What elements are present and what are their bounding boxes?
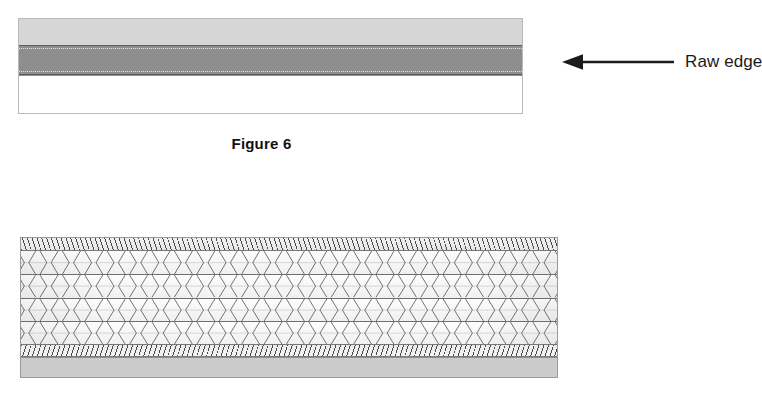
chevron-stitch-row: [21, 321, 557, 344]
raw-edge-callout: Raw edge: [561, 50, 762, 74]
fabric-layer-back: [19, 75, 522, 113]
chevron-stitch-row: [21, 298, 557, 321]
seam-cross-section-diagram: [20, 237, 558, 378]
base-plate: [21, 357, 557, 377]
arrow-left-icon: [561, 51, 676, 73]
stitch-line-top: [19, 48, 522, 49]
chevron-stitch-pattern: [21, 299, 557, 321]
chevron-stitch-field: [21, 251, 557, 344]
chevron-stitch-row: [21, 274, 557, 297]
top-selvedge-hatch: [21, 238, 557, 251]
figure-caption: Figure 6: [0, 135, 523, 152]
fabric-layer-face: [19, 19, 522, 45]
raw-edge-label: Raw edge: [685, 52, 762, 72]
figure-6-diagram: [18, 18, 523, 114]
chevron-stitch-pattern: [21, 251, 557, 274]
raw-edge-band: [19, 45, 522, 75]
bottom-selvedge-hatch: [21, 344, 557, 357]
chevron-stitch-pattern: [21, 322, 557, 344]
chevron-stitch-pattern: [21, 275, 557, 297]
chevron-stitch-row: [21, 251, 557, 274]
stitch-line-bottom: [19, 71, 522, 72]
